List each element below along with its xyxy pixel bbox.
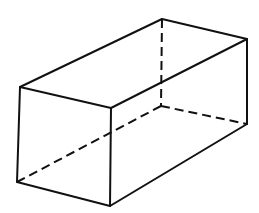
edge-top-left xyxy=(20,19,162,87)
hidden-edge-bottom-back xyxy=(161,106,247,124)
edge-front-left xyxy=(17,87,20,182)
edge-front-bottom xyxy=(17,182,110,206)
hidden-edge-back-vertical xyxy=(161,19,162,106)
edge-top-right xyxy=(111,39,247,108)
edge-top-back xyxy=(162,19,247,39)
edge-front-right xyxy=(110,108,111,206)
hidden-edge-bottom-left xyxy=(17,106,161,182)
edge-front-top xyxy=(20,87,111,108)
box-diagram xyxy=(0,0,259,213)
edge-bottom-right xyxy=(110,124,247,206)
